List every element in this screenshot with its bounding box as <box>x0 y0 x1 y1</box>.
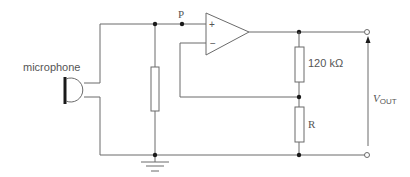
microphone-label: microphone <box>23 61 80 73</box>
node-p <box>180 22 184 26</box>
output-terminal-top <box>365 30 370 35</box>
feedback-resistor-label: 120 kΩ <box>308 57 343 69</box>
ground-icon <box>141 162 169 171</box>
vout-arrow-icon <box>366 36 371 43</box>
wire-feedback <box>180 43 299 97</box>
op-amp-plus: + <box>209 19 215 30</box>
node-bottom-right <box>297 153 301 157</box>
microphone <box>65 77 83 104</box>
ground-resistor-label: R <box>308 118 316 130</box>
node-junction <box>153 22 157 26</box>
node-ground <box>153 153 157 157</box>
microphone-body <box>66 78 83 102</box>
wire-mic-top <box>84 24 206 83</box>
node-p-label: P <box>178 8 184 20</box>
output-terminal-bottom <box>365 153 370 158</box>
feedback-resistor <box>295 47 304 82</box>
node-feedback <box>297 95 301 99</box>
input-resistor <box>151 67 159 111</box>
wire-mic-bottom <box>84 97 367 155</box>
circuit-diagram: microphone P + − 120 kΩ R VOUT <box>0 0 410 177</box>
vout-label: VOUT <box>373 92 397 106</box>
ground-resistor <box>295 107 304 142</box>
op-amp-minus: − <box>210 38 216 49</box>
